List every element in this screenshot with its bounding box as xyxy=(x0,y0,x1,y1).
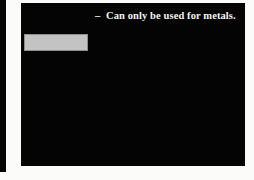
bullet-list: – Can only be used for metals. xyxy=(95,10,237,23)
slide-panel[interactable]: – Can only be used for metals. xyxy=(21,3,245,166)
bullet-text: Can only be used for metals. xyxy=(106,10,237,23)
image-placeholder[interactable] xyxy=(24,34,88,51)
slide-canvas: – Can only be used for metals. xyxy=(0,0,254,180)
dash-bullet-icon: – xyxy=(95,10,106,23)
adjacent-slide-edge xyxy=(0,0,6,172)
list-item: – Can only be used for metals. xyxy=(95,10,237,23)
